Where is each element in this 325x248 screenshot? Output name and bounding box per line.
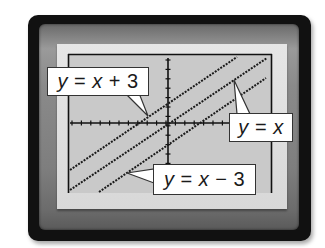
- label-rhs-var: x: [92, 70, 103, 93]
- label-lhs: y: [238, 116, 249, 139]
- label-y-equals-x-plus-3: y = x + 3: [47, 67, 149, 96]
- label-lhs: y: [164, 168, 175, 191]
- label-operator: =: [68, 70, 92, 93]
- label-lhs: y: [57, 70, 68, 93]
- label-operator: =: [174, 168, 198, 191]
- label-rhs-rest: − 3: [209, 168, 245, 191]
- label-rhs-var: x: [273, 116, 284, 139]
- label-y-equals-x: y = x: [229, 113, 293, 142]
- label-operator: =: [249, 116, 273, 139]
- label-rhs-rest: + 3: [103, 70, 139, 93]
- label-y-equals-x-minus-3: y = x − 3: [153, 164, 256, 195]
- label-rhs-var: x: [199, 168, 210, 191]
